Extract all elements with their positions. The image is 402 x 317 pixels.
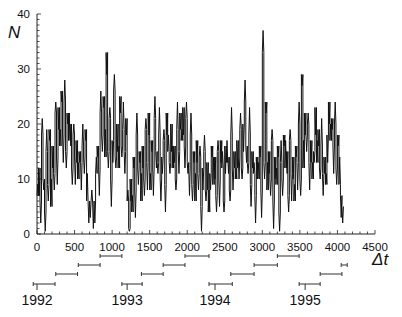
- year-label: 1993: [112, 292, 143, 308]
- y-tick-label: 40: [17, 8, 30, 20]
- y-tick-label: 30: [17, 63, 30, 75]
- x-tick-label: 2000: [174, 241, 200, 253]
- x-axis: 050010001500200025003000350040004500: [34, 230, 388, 253]
- x-tick-label: 1000: [99, 241, 125, 253]
- y-tick-label: 0: [24, 228, 30, 240]
- x-tick-label: 500: [65, 241, 84, 253]
- x-tick-label: 0: [34, 241, 40, 253]
- data-series: [37, 31, 343, 232]
- y-axis: 010203040: [17, 8, 41, 240]
- series-line: [37, 31, 343, 232]
- y-tick-label: 20: [17, 118, 30, 130]
- y-axis-label: N: [8, 23, 21, 42]
- y-tick-label: 10: [17, 173, 30, 185]
- x-axis-label: Δt: [371, 250, 389, 269]
- year-label: 1994: [199, 292, 230, 308]
- chart-figure: 010203040 050010001500200025003000350040…: [0, 0, 402, 317]
- year-label: 1995: [290, 292, 321, 308]
- x-tick-label: 1500: [137, 241, 163, 253]
- x-tick-label: 3500: [287, 241, 313, 253]
- year-label: 1992: [21, 292, 52, 308]
- x-tick-label: 3000: [250, 241, 276, 253]
- year-interval-brackets: 1992199319941995: [21, 254, 347, 308]
- x-tick-label: 4000: [325, 241, 351, 253]
- x-tick-label: 2500: [212, 241, 238, 253]
